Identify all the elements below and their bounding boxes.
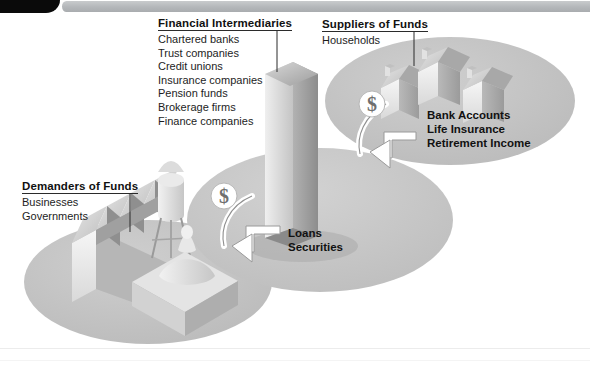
list-item: Households [322,34,380,48]
list-item: Credit unions [158,60,263,74]
demanders-title-text: Demanders of Funds [22,180,138,192]
list-item: Brokerage firms [158,101,263,115]
svg-text:$: $ [367,93,377,115]
label-household-claims: Bank Accounts Life Insurance Retirement … [427,108,531,150]
flow-label-line: Loans [288,226,343,240]
list-demanders-of-funds: Businesses Governments [22,196,88,223]
label-demanders-of-funds-title: Demanders of Funds [22,180,138,195]
coin-badge-right: $ [359,91,385,117]
svg-text:$: $ [219,185,229,207]
title-underline [322,31,428,32]
list-suppliers-of-funds: Households [322,34,380,48]
title-underline [22,193,138,194]
list-item: Pension funds [158,87,263,101]
list-item: Governments [22,210,88,224]
coin-badge-left: $ [211,183,237,209]
title-underline [158,30,292,31]
suppliers-title-text: Suppliers of Funds [322,18,428,30]
list-financial-intermediaries: Chartered banks Trust companies Credit u… [158,33,263,128]
flow-label-line: Retirement Income [427,136,531,150]
financial-intermediaries-title-text: Financial Intermediaries [158,17,292,29]
flow-label-line: Life Insurance [427,122,531,136]
footer-divider-secondary [0,360,590,361]
footer-divider [0,348,590,349]
list-item: Finance companies [158,115,263,129]
list-item: Chartered banks [158,33,263,47]
label-loans-securities: Loans Securities [288,226,343,254]
label-suppliers-of-funds-title: Suppliers of Funds [322,18,428,33]
list-item: Trust companies [158,47,263,61]
list-item: Businesses [22,196,88,210]
flow-label-line: Securities [288,240,343,254]
flow-label-line: Bank Accounts [427,108,531,122]
label-financial-intermediaries-title: Financial Intermediaries [158,17,292,32]
list-item: Insurance companies [158,74,263,88]
figure-canvas: $ $ Financial Intermediaries [0,0,590,367]
